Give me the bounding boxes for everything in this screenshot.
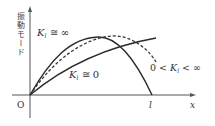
x-axis-label: x <box>190 100 195 110</box>
curve-k-infinite <box>30 37 152 95</box>
y-axis-label: 振動モード <box>16 11 25 57</box>
origin-label: O <box>17 100 24 110</box>
vibration-mode-diagram: 振動モード O l x Kl ≅ ∞ Kl ≅ 0 0 < Kl < ∞ <box>0 0 215 126</box>
y-axis-arrow-icon <box>28 6 32 12</box>
x-axis-arrow-icon <box>190 93 196 97</box>
length-label: l <box>149 100 152 110</box>
label-k-zero: Kl ≅ 0 <box>68 69 99 81</box>
label-k-intermediate: 0 < Kl < ∞ <box>150 62 201 74</box>
label-k-infinite: Kl ≅ ∞ <box>36 27 69 39</box>
